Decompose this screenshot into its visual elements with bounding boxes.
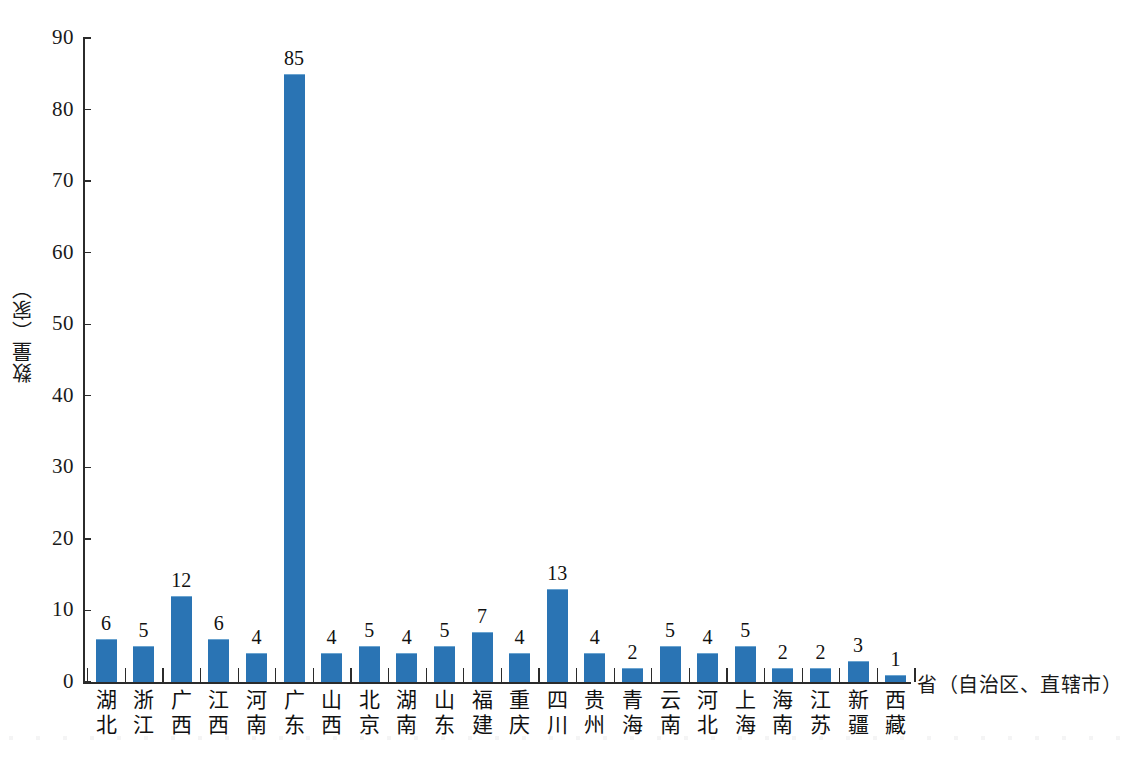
bar — [772, 668, 793, 683]
x-axis-category-label: 山西 — [314, 688, 350, 738]
bar-value-label: 4 — [226, 627, 286, 647]
x-axis-tick — [576, 668, 577, 682]
y-axis-tick-label: 90 — [32, 27, 74, 48]
x-axis-category-label: 海南 — [765, 688, 801, 738]
y-axis-tick-label: 70 — [32, 170, 74, 191]
x-axis-tick — [125, 668, 126, 682]
x-axis-tick — [839, 668, 840, 682]
bar-value-label: 7 — [452, 606, 512, 626]
bar — [133, 646, 154, 683]
bar-value-label: 85 — [264, 48, 324, 68]
y-axis-tick-label: 60 — [32, 242, 74, 263]
bar-value-label: 5 — [114, 620, 174, 640]
x-axis-category-label: 贵州 — [577, 688, 613, 738]
y-axis-tick-label: 30 — [32, 456, 74, 477]
bar — [246, 653, 267, 683]
x-axis-tick — [538, 668, 539, 682]
y-axis-title: 数量（家） — [6, 278, 40, 383]
bar-value-label: 5 — [715, 620, 775, 640]
x-axis-category-label: 青海 — [614, 688, 650, 738]
y-axis-tick-label: 20 — [32, 528, 74, 549]
x-axis-title: 省（自治区、直辖市） — [917, 672, 1122, 698]
bar — [284, 74, 305, 683]
x-axis-category-label: 江苏 — [802, 688, 838, 738]
x-axis-tick — [802, 668, 803, 682]
bar-value-label: 1 — [866, 649, 926, 669]
x-axis-category-label: 湖北 — [88, 688, 124, 738]
y-axis-tick — [83, 109, 91, 110]
bar — [509, 653, 530, 683]
x-axis-category-label: 河南 — [238, 688, 274, 738]
x-axis-category-label: 福建 — [464, 688, 500, 738]
y-axis-tick-label: 80 — [32, 99, 74, 120]
y-axis-tick — [83, 538, 91, 539]
y-axis-tick-label: 40 — [32, 385, 74, 406]
bar — [660, 646, 681, 683]
bar — [622, 668, 643, 683]
x-axis-category-label: 湖南 — [389, 688, 425, 738]
y-axis-tick — [83, 324, 91, 325]
x-axis-category-label: 浙江 — [126, 688, 162, 738]
x-axis-tick — [689, 668, 690, 682]
x-axis-category-label: 四川 — [539, 688, 575, 738]
y-axis-tick — [83, 37, 91, 38]
x-axis-tick — [388, 668, 389, 682]
x-axis-tick — [764, 668, 765, 682]
x-axis-category-label: 西藏 — [878, 688, 914, 738]
scan-noise-artifact — [0, 736, 1132, 740]
bar — [359, 646, 380, 683]
x-axis-category-label: 江西 — [201, 688, 237, 738]
bar — [171, 596, 192, 683]
bar — [697, 653, 718, 683]
x-axis-tick — [238, 668, 239, 682]
bar-value-label: 13 — [527, 563, 587, 583]
y-axis-tick — [83, 252, 91, 253]
x-axis-tick — [463, 668, 464, 682]
y-axis-tick — [83, 467, 91, 468]
x-axis-tick — [914, 668, 915, 682]
y-axis-tick — [83, 395, 91, 396]
bar — [396, 653, 417, 683]
x-axis-tick — [350, 668, 351, 682]
bar-value-label: 4 — [490, 627, 550, 647]
x-axis-category-label: 山东 — [426, 688, 462, 738]
x-axis-tick — [200, 668, 201, 682]
x-axis-tick — [501, 668, 502, 682]
bar-chart-figure: 0102030405060708090 数量（家） 65126485454574… — [0, 0, 1132, 763]
bar — [434, 646, 455, 683]
x-axis-category-label: 新疆 — [840, 688, 876, 738]
bar-value-label: 2 — [602, 642, 662, 662]
x-axis-category-label: 重庆 — [502, 688, 538, 738]
y-axis-tick-label: 10 — [32, 599, 74, 620]
x-axis-tick — [87, 668, 88, 682]
x-axis-tick — [275, 668, 276, 682]
y-axis-line — [83, 38, 85, 683]
x-axis-line — [83, 682, 911, 684]
x-axis-category-label: 云南 — [652, 688, 688, 738]
y-axis-tick — [83, 610, 91, 611]
x-axis-tick — [426, 668, 427, 682]
x-axis-tick — [313, 668, 314, 682]
x-axis-tick — [651, 668, 652, 682]
y-axis-tick-label: 0 — [32, 671, 74, 692]
x-axis-category-label: 广东 — [276, 688, 312, 738]
y-axis-tick — [83, 180, 91, 181]
x-axis-category-label: 广西 — [163, 688, 199, 738]
x-axis-category-label: 河北 — [690, 688, 726, 738]
bar-value-label: 12 — [151, 570, 211, 590]
bar — [96, 639, 117, 683]
x-axis-category-label: 上海 — [727, 688, 763, 738]
x-axis-tick — [877, 668, 878, 682]
x-axis-category-label: 北京 — [351, 688, 387, 738]
x-axis-tick — [614, 668, 615, 682]
x-axis-tick — [726, 668, 727, 682]
x-axis-tick — [162, 668, 163, 682]
bar — [321, 653, 342, 683]
bar — [810, 668, 831, 683]
